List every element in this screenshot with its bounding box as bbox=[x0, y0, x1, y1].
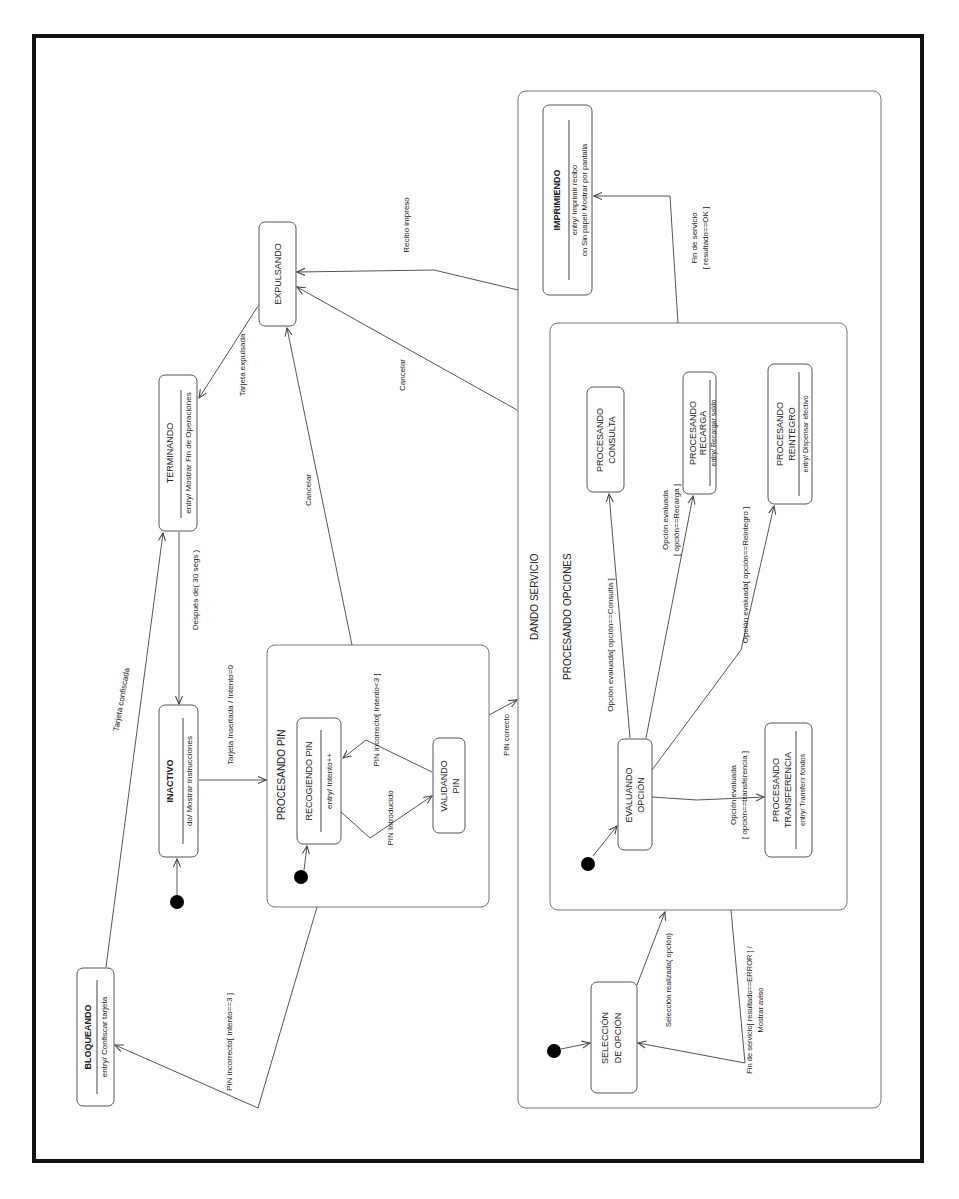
state-expulsando: EXPULSANDO bbox=[259, 222, 296, 326]
state-bloqueando: BLOQUEANDO entry/ Confiscar tarjeta bbox=[77, 968, 114, 1106]
svg-text:PROCESANDO: PROCESANDO bbox=[688, 401, 698, 465]
svg-text:Recibo impreso: Recibo impreso bbox=[402, 197, 411, 253]
label-procesando-opciones: PROCESANDO OPCIONES bbox=[562, 553, 573, 680]
svg-text:SELECCIÓN: SELECCIÓN bbox=[600, 1012, 610, 1064]
svg-text:RECARGA: RECARGA bbox=[698, 411, 708, 456]
svg-text:entry/ Imprimir recibo: entry/ Imprimir recibo bbox=[570, 165, 579, 235]
svg-text:Después de( 30 segs ): Después de( 30 segs ) bbox=[191, 549, 200, 630]
svg-text:RECOGIENDO PIN: RECOGIENDO PIN bbox=[304, 741, 314, 820]
svg-text:Tarjeta expulsada: Tarjeta expulsada bbox=[238, 333, 247, 396]
state-validando-pin: VALIDANDO PIN bbox=[433, 738, 465, 833]
svg-text:[ resultado==OK ]: [ resultado==OK ] bbox=[701, 207, 710, 270]
initial-state-pin bbox=[294, 870, 308, 884]
svg-text:Opción evaluada[ opción==Reint: Opción evaluada[ opción==Reintegro ] bbox=[741, 507, 750, 644]
state-procesando-transferencia: PROCESANDO TRANSFERENCIA entry/ Transfer… bbox=[765, 723, 812, 857]
svg-text:TRANSFERENCIA: TRANSFERENCIA bbox=[783, 752, 793, 828]
svg-text:Mostrar aviso: Mostrar aviso bbox=[756, 987, 765, 1032]
svg-text:VALIDANDO: VALIDANDO bbox=[439, 760, 449, 811]
state-seleccion-opcion: SELECCIÓN DE OPCIÓN bbox=[591, 982, 637, 1093]
transition-pin-correcto bbox=[489, 700, 517, 715]
svg-text:[ opción==Recarga ]: [ opción==Recarga ] bbox=[672, 484, 681, 556]
svg-text:PROCESANDO: PROCESANDO bbox=[775, 402, 785, 466]
state-diagram: DANDO SERVICIO PROCESANDO OPCIONES IMPRI… bbox=[0, 0, 959, 1199]
label-pin-incorrecto-lt3: PIN incorrecto[ Intento<3 ] bbox=[372, 673, 381, 766]
label-pin-introducido: PIN Introducido bbox=[386, 790, 395, 846]
state-terminando: TERMINANDO entry/ Mostrar Fin de Operaci… bbox=[159, 375, 197, 531]
initial-state-servicio bbox=[547, 1044, 561, 1058]
svg-text:IMPRIMIENDO: IMPRIMIENDO bbox=[552, 169, 562, 230]
svg-text:PROCESANDO: PROCESANDO bbox=[771, 758, 781, 822]
svg-text:EVALUANDO: EVALUANDO bbox=[624, 768, 634, 823]
transition-cancelar-servicio bbox=[297, 287, 517, 410]
state-recogiendo-pin: RECOGIENDO PIN entry/ Intento++ bbox=[297, 718, 341, 844]
svg-text:entry/ Dispensar efectivo: entry/ Dispensar efectivo bbox=[802, 395, 810, 472]
svg-text:OPCIÓN: OPCIÓN bbox=[636, 777, 646, 813]
state-imprimiendo: IMPRIMIENDO entry/ Imprimir recibo on Si… bbox=[543, 105, 592, 295]
transition-recibo-impreso bbox=[297, 270, 518, 290]
state-procesando-recarga: PROCESANDO RECARGA entry/ Recargar saldo bbox=[683, 372, 718, 494]
svg-text:do/ Mostrar Instrucciones: do/ Mostrar Instrucciones bbox=[185, 736, 194, 826]
transition-cancelar-pin bbox=[287, 328, 352, 645]
svg-text:Fin de servicio[ resultado==ER: Fin de servicio[ resultado==ERROR ] / bbox=[745, 945, 754, 1073]
svg-text:on Sin papel/ Mostrar por pant: on Sin papel/ Mostrar por pantalla bbox=[580, 143, 589, 256]
svg-text:REINTEGRO: REINTEGRO bbox=[787, 407, 797, 461]
svg-text:CONSULTA: CONSULTA bbox=[607, 416, 617, 464]
initial-state-main bbox=[170, 895, 184, 909]
svg-text:BLOQUEANDO: BLOQUEANDO bbox=[83, 1005, 93, 1070]
state-evaluando-opcion: EVALUANDO OPCIÓN bbox=[618, 739, 652, 850]
svg-text:entry/ Recargar saldo: entry/ Recargar saldo bbox=[710, 399, 718, 466]
svg-text:Cancelar: Cancelar bbox=[398, 359, 407, 391]
svg-text:entry/ Confiscar tarjeta: entry/ Confiscar tarjeta bbox=[100, 996, 109, 1077]
initial-state-opciones bbox=[581, 857, 595, 871]
svg-text:entry/ Mostrar Fin de Operacio: entry/ Mostrar Fin de Operaciones bbox=[184, 392, 193, 513]
label-dando-servicio: DANDO SERVICIO bbox=[529, 553, 540, 640]
svg-text:EXPULSANDO: EXPULSANDO bbox=[273, 243, 283, 305]
svg-text:Cancelar: Cancelar bbox=[304, 474, 313, 506]
svg-text:entry/ Intento++: entry/ Intento++ bbox=[325, 753, 334, 809]
svg-text:Tarjeta confiscada: Tarjeta confiscada bbox=[112, 666, 132, 732]
svg-text:Opción evaluada[ opción==Consu: Opción evaluada[ opción==Consulta ] bbox=[606, 578, 615, 711]
svg-text:Tarjeta Insertada / Intento=0: Tarjeta Insertada / Intento=0 bbox=[226, 665, 235, 765]
state-procesando-consulta: PROCESANDO CONSULTA bbox=[587, 387, 624, 492]
svg-text:TERMINANDO: TERMINANDO bbox=[165, 423, 175, 484]
svg-text:PIN: PIN bbox=[451, 778, 461, 793]
svg-text:PIN incorrecto[ Intento==3 ]: PIN incorrecto[ Intento==3 ] bbox=[225, 993, 234, 1091]
svg-text:entry/ Transferir fondos: entry/ Transferir fondos bbox=[799, 754, 807, 826]
svg-text:PIN correcto: PIN correcto bbox=[502, 714, 511, 756]
svg-text:Opción evaluada: Opción evaluada bbox=[729, 764, 738, 825]
svg-text:Selección realizada( opción): Selección realizada( opción) bbox=[664, 932, 673, 1027]
transition-tarjeta-expulsada bbox=[199, 306, 258, 398]
svg-text:INACTIVO: INACTIVO bbox=[165, 759, 175, 802]
svg-text:Fin de servicio: Fin de servicio bbox=[690, 212, 699, 264]
state-inactivo: INACTIVO do/ Mostrar Instrucciones bbox=[159, 705, 198, 857]
transition-pin-incorrecto-3 bbox=[115, 907, 317, 1108]
svg-text:PROCESANDO: PROCESANDO bbox=[595, 408, 605, 472]
svg-text:[ opción==transferencia ]: [ opción==transferencia ] bbox=[740, 751, 749, 839]
label-procesando-pin: PROCESANDO PIN bbox=[276, 729, 287, 820]
svg-text:DE OPCIÓN: DE OPCIÓN bbox=[613, 1013, 623, 1064]
state-procesando-reintegro: PROCESANDO REINTEGRO entry/ Dispensar ef… bbox=[768, 364, 812, 504]
svg-text:Opción evaluada: Opción evaluada bbox=[661, 489, 670, 550]
transition-tarjeta-confiscada bbox=[106, 533, 163, 967]
